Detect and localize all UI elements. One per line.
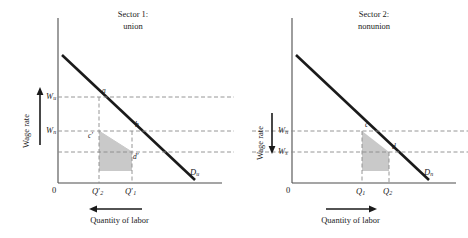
point-label-d: d	[392, 143, 396, 151]
quantity-label-q1: Q1	[356, 187, 365, 196]
wage-label-wn-sub: n	[53, 129, 56, 135]
demand-curve-label-du: Du	[190, 168, 199, 177]
panel-title-line1: Sector 2:	[319, 10, 429, 19]
origin-label: 0	[286, 186, 290, 195]
quantity-label-q2-prime: Q′2	[92, 187, 103, 196]
wage-label-wn: Wn	[46, 126, 56, 135]
quantity-label-q1-sub: 1	[362, 190, 365, 196]
quantity-direction-arrow-head	[89, 206, 97, 213]
point-label-d-prime: d′	[133, 153, 138, 161]
point-label-b: b	[135, 121, 139, 129]
wage-direction-arrow-head	[37, 87, 44, 95]
x-axis-caption: Quantity of labor	[67, 216, 172, 225]
point-label-c: c	[365, 121, 368, 129]
wage-label-ws: Ws	[278, 147, 288, 156]
quantity-label-q2-sub: 2	[100, 190, 103, 196]
point-label-c-prime: c′	[88, 132, 93, 140]
demand-curve-label-dn: Dn	[424, 168, 433, 177]
panel-title-line2: nonunion	[319, 22, 429, 31]
panel-sector-1-graphic	[0, 0, 234, 238]
quantity-label-q2: Q2	[383, 187, 392, 196]
quantity-label-q1-sub: 1	[133, 190, 136, 196]
demand-curve-label-dn-sub: n	[430, 171, 433, 177]
y-axis-caption: Wage rate	[22, 114, 31, 148]
quantity-label-q2-sub: 2	[389, 190, 392, 196]
wage-label-wu-sub: u	[53, 95, 56, 101]
wage-label-ws-sub: s	[285, 150, 288, 156]
quantity-label-q1-prime: Q′1	[125, 187, 136, 196]
panel-title-line2: union	[78, 22, 188, 31]
quantity-direction-arrow-head	[369, 206, 377, 213]
panel-sector-2: Sector 2: nonunion Wage rate Quantity of…	[234, 0, 468, 238]
x-axis-caption: Quantity of labor	[298, 216, 403, 225]
wage-label-wn: Wn	[278, 126, 288, 135]
y-axis-caption: Wage rate	[256, 126, 265, 160]
shaded-transfer-area	[99, 131, 132, 171]
figure-root: Sector 1: union Wage rate Quantity of la…	[0, 0, 468, 238]
wage-label-wu: Wu	[46, 92, 56, 101]
origin-label: 0	[52, 186, 56, 195]
demand-curve-label-du-sub: u	[196, 171, 199, 177]
panel-title-line1: Sector 1:	[78, 10, 188, 19]
wage-label-wn-sub: n	[285, 129, 288, 135]
panel-sector-2-graphic	[234, 0, 468, 238]
point-label-c-prime-mark: ′	[91, 131, 93, 140]
point-label-a: a	[102, 87, 106, 95]
point-label-d-prime-mark: ′	[137, 152, 139, 161]
wage-direction-arrow-head	[269, 146, 276, 154]
panel-sector-1: Sector 1: union Wage rate Quantity of la…	[0, 0, 234, 238]
